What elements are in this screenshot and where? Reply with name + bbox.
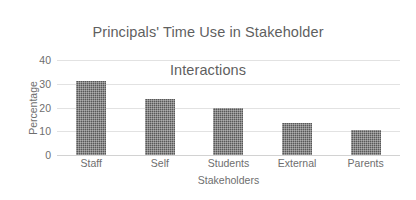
x-axis-title: Stakeholders	[57, 174, 400, 186]
bar-external[interactable]	[282, 123, 312, 155]
x-axis-label-staff: Staff	[57, 157, 126, 169]
bar-chart: Principals' Time Use in Stakeholder Inte…	[0, 0, 416, 200]
bars-container	[57, 60, 400, 155]
x-axis-labels: Staff Self Students External Parents	[57, 157, 400, 169]
x-axis-label-self: Self	[126, 157, 195, 169]
x-axis-label-external: External	[263, 157, 332, 169]
bar-slot-parents	[331, 60, 400, 155]
bar-slot-students	[194, 60, 263, 155]
bar-students[interactable]	[213, 108, 243, 156]
bar-slot-staff	[57, 60, 126, 155]
axis-baseline	[57, 155, 400, 156]
chart-title-line-1: Principals' Time Use in Stakeholder	[92, 24, 323, 40]
y-axis-ticks: 40 30 20 10 0	[0, 0, 51, 200]
bar-self[interactable]	[145, 99, 175, 155]
y-axis-tick-label: 40	[5, 54, 51, 66]
bar-staff[interactable]	[76, 81, 106, 155]
x-axis-label-parents: Parents	[331, 157, 400, 169]
bar-parents[interactable]	[351, 130, 381, 155]
y-axis-tick-label: 10	[5, 125, 51, 137]
x-axis-label-students: Students	[194, 157, 263, 169]
y-axis-tick-label: 30	[5, 78, 51, 90]
bar-slot-external	[263, 60, 332, 155]
y-axis-tick-label: 20	[5, 102, 51, 114]
bar-slot-self	[126, 60, 195, 155]
y-axis-tick-label: 0	[5, 149, 51, 161]
